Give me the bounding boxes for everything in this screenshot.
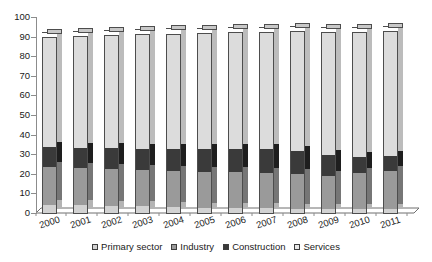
bar-segment-side-construction <box>119 143 124 164</box>
y-axis-tick <box>31 135 36 136</box>
bar-segment-side-industry <box>398 166 403 204</box>
bar-segment-construction[interactable] <box>383 156 398 171</box>
y-axis-tick-label: 80 <box>0 51 30 61</box>
bar-segment-side-industry <box>212 167 217 203</box>
bar-column[interactable] <box>321 18 336 214</box>
bar-segment-services[interactable] <box>135 34 150 148</box>
bar-column[interactable] <box>352 18 367 214</box>
bar-segment-primary[interactable] <box>290 209 305 214</box>
bar-column[interactable] <box>383 18 398 214</box>
bar-segment-services[interactable] <box>104 35 119 148</box>
bar-segment-construction[interactable] <box>166 149 181 171</box>
bar-segment-services[interactable] <box>259 32 274 149</box>
bar-segment-side-construction <box>274 144 279 168</box>
bar-segment-industry[interactable] <box>321 176 336 209</box>
bar-segment-side-construction <box>305 146 310 169</box>
bar-segment-construction[interactable] <box>321 155 336 176</box>
bar-column[interactable] <box>228 18 243 214</box>
bar-top-bevel <box>352 27 357 33</box>
bar-segment-primary[interactable] <box>135 206 150 214</box>
bar-segment-side-services <box>212 28 217 144</box>
bar-segment-services[interactable] <box>228 32 243 148</box>
legend-item[interactable]: Primary sector <box>92 241 162 252</box>
bar-column[interactable] <box>259 18 274 214</box>
bar-top-bevel <box>321 27 326 33</box>
bar-segment-side-services <box>398 26 403 151</box>
bar-segment-side-primary <box>274 203 279 209</box>
bar-segment-construction[interactable] <box>104 148 119 169</box>
bar-column[interactable] <box>197 18 212 214</box>
bar-segment-primary[interactable] <box>42 205 57 214</box>
bar-segment-side-services <box>336 27 341 150</box>
bar-segment-services[interactable] <box>290 31 305 151</box>
y-axis-tick <box>31 193 36 194</box>
bar-segment-side-primary <box>88 200 93 209</box>
bar-segment-primary[interactable] <box>166 207 181 214</box>
bar-column[interactable] <box>290 18 305 214</box>
bar-segment-construction[interactable] <box>290 151 305 174</box>
legend-item[interactable]: Industry <box>171 241 214 252</box>
bar-segment-services[interactable] <box>197 33 212 149</box>
bar-segment-side-construction <box>336 150 341 171</box>
bar-segment-primary[interactable] <box>197 208 212 214</box>
bar-top-face <box>202 25 217 30</box>
bar-segment-construction[interactable] <box>197 149 212 172</box>
bar-segment-primary[interactable] <box>259 208 274 214</box>
bar-segment-industry[interactable] <box>259 173 274 208</box>
bar-segment-services[interactable] <box>352 32 367 157</box>
bar-segment-construction[interactable] <box>42 147 57 167</box>
bar-segment-services[interactable] <box>383 31 398 156</box>
bar-segment-side-industry <box>88 163 93 201</box>
bar-segment-primary[interactable] <box>73 205 88 214</box>
x-axis-tick-label: 2011 <box>379 215 402 231</box>
bar-top-face <box>357 24 372 29</box>
bar-column[interactable] <box>135 18 150 214</box>
bar-column[interactable] <box>166 18 181 214</box>
bar-segment-services[interactable] <box>73 36 88 148</box>
x-axis-tick-label: 2001 <box>69 214 92 230</box>
y-axis-tick <box>31 76 36 77</box>
bar-segment-construction[interactable] <box>73 148 88 168</box>
bar-segment-construction[interactable] <box>352 157 367 174</box>
bar-column[interactable] <box>42 18 57 214</box>
bar-segment-services[interactable] <box>166 34 181 149</box>
bar-segment-primary[interactable] <box>228 208 243 214</box>
bar-segment-side-construction <box>367 152 372 169</box>
bar-segment-industry[interactable] <box>352 173 367 209</box>
bar-segment-primary[interactable] <box>104 206 119 214</box>
y-axis-tick-label: 10 <box>0 188 30 198</box>
legend-item[interactable]: Services <box>294 241 339 252</box>
x-axis-tick-label: 2009 <box>317 214 340 230</box>
bar-segment-services[interactable] <box>42 37 57 147</box>
bar-segment-construction[interactable] <box>228 149 243 173</box>
bar-segment-industry[interactable] <box>383 171 398 209</box>
bar-top-bevel <box>135 29 140 35</box>
bar-top-bevel <box>104 30 109 36</box>
legend-item[interactable]: Construction <box>223 241 285 252</box>
bar-segment-industry[interactable] <box>228 172 243 208</box>
bar-segment-industry[interactable] <box>166 171 181 207</box>
legend-label: Construction <box>232 241 285 252</box>
bar-segment-side-primary <box>181 202 186 209</box>
bar-segment-side-construction <box>243 144 248 168</box>
bar-column[interactable] <box>73 18 88 214</box>
bar-segment-services[interactable] <box>321 32 336 155</box>
y-axis-line <box>36 17 37 214</box>
bar-segment-side-services <box>367 27 372 152</box>
bar-segment-side-industry <box>336 171 341 204</box>
bar-segment-industry[interactable] <box>42 167 57 205</box>
bar-column[interactable] <box>104 18 119 214</box>
x-axis-tick-label: 2007 <box>255 214 278 230</box>
bar-segment-industry[interactable] <box>197 172 212 208</box>
bar-segment-industry[interactable] <box>104 169 119 206</box>
bar-segment-industry[interactable] <box>290 174 305 208</box>
bar-segment-industry[interactable] <box>73 168 88 206</box>
bar-top-face <box>171 25 186 30</box>
x-axis-tick-label: 2008 <box>286 214 309 230</box>
bar-segment-side-primary <box>150 201 155 209</box>
bar-top-face <box>78 28 93 33</box>
bar-segment-construction[interactable] <box>135 149 150 170</box>
legend-label: Services <box>303 241 339 252</box>
bar-segment-construction[interactable] <box>259 149 274 173</box>
bar-segment-industry[interactable] <box>135 170 150 207</box>
